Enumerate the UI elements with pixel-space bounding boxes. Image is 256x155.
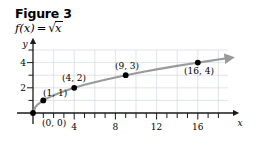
y-tick-label-4: 4 [20, 58, 26, 68]
x-tick-label-12: 12 [151, 122, 162, 132]
x-tick-label-4: 4 [71, 122, 77, 132]
y-axis-ticks [27, 50, 33, 100]
plot-area: 4 8 12 16 2 4 y x (0, 0) (1, 1) (4, 2) (… [0, 36, 256, 155]
data-point-0-0 [30, 110, 36, 116]
data-point-4-2 [71, 85, 77, 91]
x-axis-label: x [237, 118, 242, 128]
point-label-0-0: (0, 0) [42, 118, 66, 128]
figure-container: Figure 3 f(x)=√x [0, 0, 256, 155]
point-label-1-1: (1, 1) [43, 88, 67, 98]
y-tick-label-2: 2 [20, 83, 26, 93]
data-point-9-3 [123, 72, 129, 78]
radical-expression: √x [48, 21, 62, 35]
x-axis-ticks [43, 113, 218, 120]
equals-sign: = [35, 21, 49, 35]
data-point-labels: (0, 0) (1, 1) (4, 2) (9, 3) (16, 4) [42, 61, 214, 128]
y-axis-label: y [21, 39, 28, 49]
data-point-1-1 [40, 98, 46, 104]
point-label-16-4: (16, 4) [184, 66, 214, 76]
radicand: x [55, 21, 63, 34]
x-tick-label-8: 8 [113, 122, 119, 132]
x-tick-label-16: 16 [192, 122, 204, 132]
figure-function-expression: f(x)=√x [15, 21, 215, 35]
data-point-16-4 [195, 60, 201, 66]
axes [17, 43, 234, 124]
point-label-9-3: (9, 3) [115, 61, 139, 71]
function-notation: f(x) [15, 21, 35, 35]
figure-title: Figure 3 [15, 7, 215, 20]
point-label-4-2: (4, 2) [62, 73, 86, 83]
figure-caption: Figure 3 f(x)=√x [15, 7, 215, 35]
